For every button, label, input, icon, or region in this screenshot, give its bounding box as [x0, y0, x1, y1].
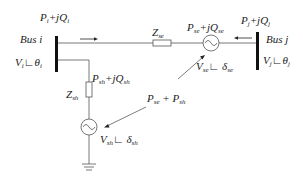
label-vj: Vj∟θj	[263, 54, 290, 70]
label-pi-qi: Pi+jQi	[40, 11, 69, 27]
exchange-line-down	[107, 107, 146, 126]
label-zse: Zse	[152, 26, 164, 42]
label-bus-j: Bus j	[266, 33, 288, 45]
label-vse: Vse∟ δse	[196, 60, 233, 76]
ground-icon	[82, 164, 96, 170]
bus-i-bar	[55, 36, 58, 72]
label-bus-i: Bus i	[20, 33, 42, 45]
upfc-diagram: Pi+jQi Bus i Vi∟θi Zse Pse+jQse Pj+jQj B…	[0, 0, 303, 184]
bus-j-bar	[256, 32, 259, 70]
label-zsh: Zsh	[66, 88, 78, 104]
flow-arrow-j-head	[234, 36, 238, 39]
label-vi: Vi∟θi	[15, 56, 42, 72]
exchange-arrow-down-head	[104, 124, 110, 128]
label-pse-qse: Pse+jQse	[187, 21, 224, 37]
label-pse-psh: Pse + Psh	[147, 92, 185, 108]
label-psh-qsh: Psh+jQsh	[92, 72, 130, 88]
label-pj-qj: Pj+jQj	[241, 14, 270, 30]
label-vsh: Vsh∟ δsh	[100, 133, 138, 149]
flow-arrow-i-head	[94, 37, 98, 40]
